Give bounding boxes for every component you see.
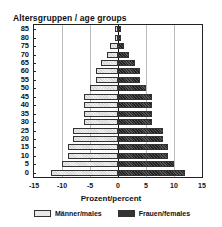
- bar-male-60: [96, 68, 118, 74]
- y-tick: [33, 131, 36, 132]
- legend-swatch-males: [34, 210, 51, 217]
- x-tick-label: -10: [52, 182, 72, 189]
- y-tick-label: 75: [9, 42, 29, 50]
- y-tick-label: 20: [9, 135, 29, 143]
- y-tick: [33, 71, 36, 72]
- bar-male-35: [84, 111, 118, 117]
- legend-label-females: Frauen/females: [139, 210, 190, 217]
- bar-male-15: [68, 144, 118, 150]
- bar-male-55: [96, 77, 118, 83]
- bar-male-25: [73, 128, 118, 134]
- x-tick-label: 0: [108, 182, 128, 189]
- bar-male-10: [68, 153, 118, 159]
- y-tick: [33, 55, 36, 56]
- y-tick-label: 10: [9, 152, 29, 160]
- bar-male-70: [107, 52, 118, 58]
- bar-female-25: [118, 128, 163, 134]
- bar-female-10: [118, 153, 168, 159]
- bar-female-85: [118, 26, 121, 32]
- y-tick: [33, 88, 36, 89]
- bar-female-5: [118, 161, 174, 167]
- bar-male-45: [84, 94, 118, 100]
- bar-female-55: [118, 77, 140, 83]
- bar-female-80: [118, 35, 121, 41]
- plot-area: [33, 24, 203, 178]
- y-tick: [33, 46, 36, 47]
- y-tick-label: 15: [9, 143, 29, 151]
- y-tick-label: 0: [9, 169, 29, 177]
- legend-swatch-females: [118, 210, 135, 217]
- chart-title: Altersgruppen / age groups: [13, 13, 127, 23]
- y-tick: [33, 105, 36, 106]
- bar-male-5: [62, 161, 118, 167]
- bar-female-30: [118, 119, 152, 125]
- x-tick-label: 5: [136, 182, 156, 189]
- y-tick-label: 50: [9, 84, 29, 92]
- bar-female-75: [118, 43, 124, 49]
- y-tick: [33, 29, 36, 30]
- bar-female-0: [118, 170, 185, 176]
- bar-female-65: [118, 60, 135, 66]
- gridline: [62, 25, 63, 177]
- bar-female-45: [118, 94, 152, 100]
- y-tick: [33, 122, 36, 123]
- y-tick-label: 45: [9, 93, 29, 101]
- bar-female-20: [118, 136, 163, 142]
- y-tick: [33, 63, 36, 64]
- y-tick-label: 80: [9, 34, 29, 42]
- y-tick-label: 70: [9, 51, 29, 59]
- bar-female-35: [118, 111, 152, 117]
- y-tick: [33, 80, 36, 81]
- x-tick-label: -15: [24, 182, 44, 189]
- y-tick: [33, 147, 36, 148]
- y-tick: [33, 97, 36, 98]
- y-tick-label: 85: [9, 25, 29, 33]
- y-tick-label: 55: [9, 76, 29, 84]
- x-tick-label: -5: [80, 182, 100, 189]
- y-tick-label: 25: [9, 127, 29, 135]
- bar-female-50: [118, 85, 146, 91]
- legend-label-males: Männer/males: [55, 210, 102, 217]
- y-tick: [33, 139, 36, 140]
- bar-male-40: [84, 102, 118, 108]
- y-tick: [33, 114, 36, 115]
- y-tick-label: 5: [9, 160, 29, 168]
- bar-male-65: [101, 60, 118, 66]
- bar-female-70: [118, 52, 129, 58]
- y-tick: [33, 38, 36, 39]
- y-tick-label: 40: [9, 101, 29, 109]
- y-tick-label: 60: [9, 67, 29, 75]
- bar-male-0: [51, 170, 118, 176]
- bar-male-50: [90, 85, 118, 91]
- x-tick-label: 15: [192, 182, 212, 189]
- bar-male-20: [73, 136, 118, 142]
- y-tick-label: 35: [9, 110, 29, 118]
- bar-female-60: [118, 68, 140, 74]
- y-tick: [33, 173, 36, 174]
- bar-female-15: [118, 144, 168, 150]
- x-tick-label: 10: [164, 182, 184, 189]
- bar-male-75: [110, 43, 118, 49]
- bar-female-40: [118, 102, 152, 108]
- gridline: [174, 25, 175, 177]
- y-tick-label: 30: [9, 118, 29, 126]
- legend: Männer/males Frauen/females: [34, 210, 190, 217]
- y-tick: [33, 164, 36, 165]
- y-tick-label: 65: [9, 59, 29, 67]
- x-axis-title: Prozent/percent: [0, 194, 222, 203]
- y-tick: [33, 156, 36, 157]
- bar-male-30: [84, 119, 118, 125]
